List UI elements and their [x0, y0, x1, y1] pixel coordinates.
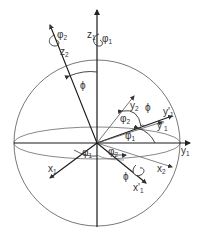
phi-arc-z	[69, 72, 97, 77]
label-x1: x1	[48, 163, 57, 175]
label-phi2-upper: φ2	[120, 113, 130, 125]
label-z2: z2	[60, 46, 69, 58]
label-y2: y2	[130, 100, 139, 112]
euler-angle-sphere-diagram: z1 φ1 φ2 z2 ϕ y2 ϕ y'1 φ2 y'1 φ1 y1 φ1 φ…	[0, 0, 208, 239]
x1-axis	[50, 143, 97, 178]
label-z1: z1	[87, 29, 96, 41]
label-phi1-left: φ1	[82, 147, 92, 159]
label-x1-prime: x'1	[133, 182, 144, 194]
label-phi1-top: φ1	[102, 33, 112, 45]
label-phi-y: ϕ	[145, 102, 151, 113]
z2-axis	[50, 25, 97, 143]
label-phi1-right: φ1	[125, 130, 135, 142]
label-phi-x: ϕ	[123, 171, 129, 182]
label-y1-prime: y'1	[157, 120, 168, 132]
label-phi-z: ϕ	[80, 80, 86, 91]
label-phi2-lower: φ2	[108, 146, 118, 158]
label-phi2-top: φ2	[57, 29, 67, 41]
rotation-about-x1p-icon	[133, 165, 144, 176]
x1-prime-axis	[97, 143, 146, 183]
label-y1: y1	[181, 145, 190, 157]
